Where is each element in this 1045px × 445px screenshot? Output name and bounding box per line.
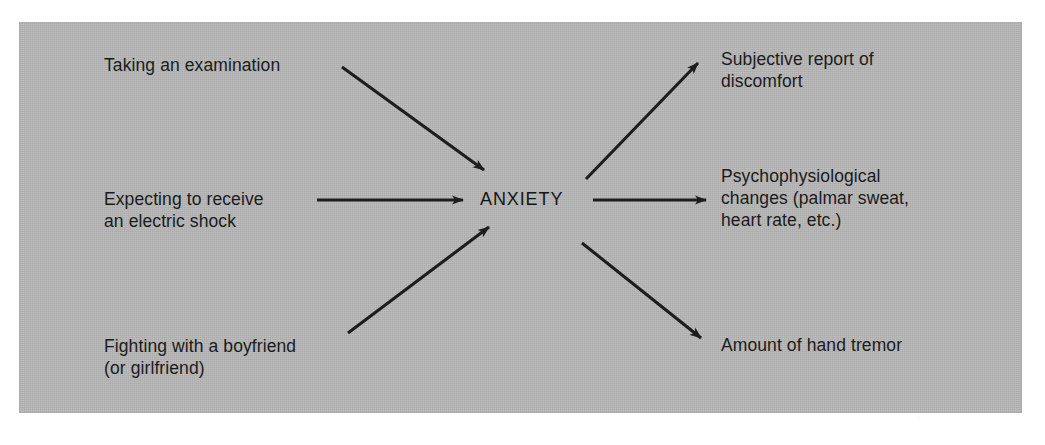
indicator-label-subjective-report: Subjective report of discomfort — [721, 48, 874, 92]
figure-page: Taking an examination Expecting to recei… — [0, 0, 1045, 445]
indicator-label-psychophysiological-changes: Psychophysiological changes (palmar swea… — [721, 165, 909, 231]
antecedent-label-fight: Fighting with a boyfriend (or girlfriend… — [104, 335, 296, 379]
indicator-label-hand-tremor: Amount of hand tremor — [721, 334, 902, 356]
antecedent-label-shock: Expecting to receive an electric shock — [104, 188, 264, 232]
antecedent-label-exam: Taking an examination — [104, 54, 280, 76]
construct-label-anxiety: ANXIETY — [480, 189, 563, 210]
